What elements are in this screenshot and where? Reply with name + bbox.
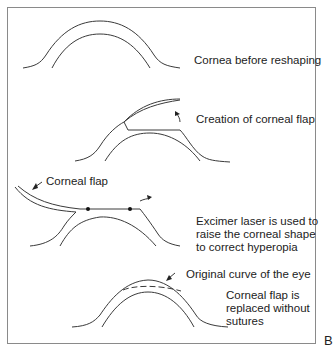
original-curve-arrow-icon (166, 273, 175, 281)
laser-direction-arrow-icon (140, 195, 152, 201)
cornea-before-reshaping (23, 21, 180, 68)
corneal-flap-label: Corneal flap (46, 175, 108, 188)
step-1-label: Cornea before reshaping (194, 54, 321, 67)
flap-pointer-arrow-icon (32, 182, 42, 190)
original-curve-label: Original curve of the eye (186, 268, 311, 281)
flap-replaced (72, 280, 228, 327)
step-3-label: Excimer laser is used to raise the corne… (196, 215, 318, 254)
corneal-flap-creation (75, 99, 230, 162)
flap-lift-arrow-icon (175, 111, 180, 122)
excimer-laser-step (15, 186, 180, 246)
step-2-label: Creation of corneal flap (196, 113, 315, 126)
panel-letter: B (324, 333, 333, 348)
step-4-label: Corneal flap is replaced without sutures (226, 289, 310, 328)
